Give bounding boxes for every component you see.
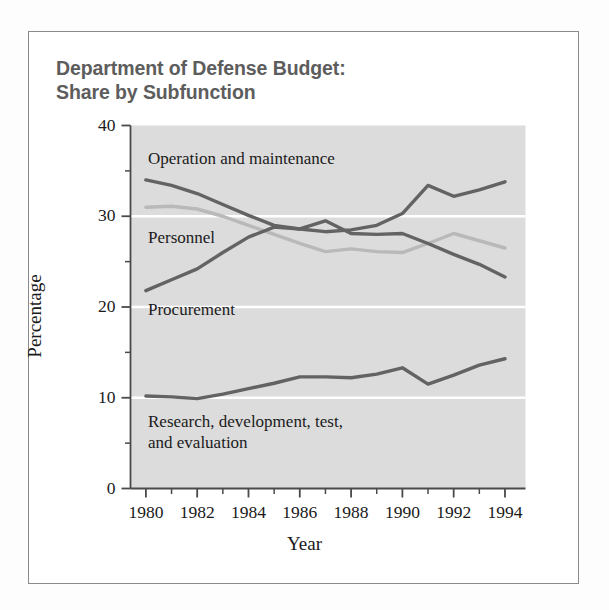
- figure-canvas: Department of Defense Budget: Share by S…: [0, 0, 609, 610]
- series-label-procurement: Procurement: [148, 299, 235, 320]
- y-tick-label: 20: [0, 296, 116, 317]
- y-tick-label: 40: [0, 115, 116, 136]
- plot-area: Percentage Year 010203040 19801982198419…: [0, 0, 609, 610]
- y-tick-label: 0: [0, 478, 116, 499]
- series-label-operation-and-maintenance: Operation and maintenance: [148, 148, 335, 169]
- x-tick-label: 1994: [475, 502, 535, 523]
- x-axis-title: Year: [0, 533, 609, 555]
- y-tick-label: 10: [0, 387, 116, 408]
- y-tick-label: 30: [0, 205, 116, 226]
- series-label-personnel: Personnel: [148, 227, 215, 248]
- series-label-research-development-test-and-evaluation: Research, development, test, and evaluat…: [148, 411, 343, 453]
